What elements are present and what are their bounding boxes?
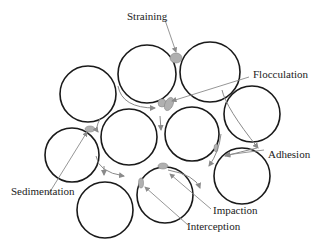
label-adhesion: Adhesion bbox=[268, 148, 311, 160]
impaction-particle bbox=[158, 163, 168, 169]
label-flocculation: Flocculation bbox=[253, 68, 308, 80]
label-interception: Interception bbox=[187, 220, 241, 232]
interception-particle bbox=[139, 178, 144, 188]
grain-8 bbox=[77, 182, 133, 238]
grain-7 bbox=[45, 128, 99, 182]
label-straining: Straining bbox=[127, 10, 168, 22]
sedimentation-particle bbox=[85, 126, 95, 132]
grain-1 bbox=[60, 66, 116, 122]
straining-particle bbox=[170, 53, 182, 63]
grain-6 bbox=[165, 107, 219, 161]
label-impaction: Impaction bbox=[213, 204, 258, 216]
label-sedimentation: Sedimentation bbox=[11, 185, 75, 197]
grain-5 bbox=[101, 109, 157, 165]
grain-3 bbox=[180, 42, 240, 102]
grain-2 bbox=[118, 45, 176, 103]
grain-4 bbox=[224, 86, 280, 142]
grain-10 bbox=[214, 148, 270, 204]
grain-9 bbox=[137, 167, 193, 223]
filtration-diagram: Straining Flocculation Adhesion Sediment… bbox=[0, 0, 329, 249]
